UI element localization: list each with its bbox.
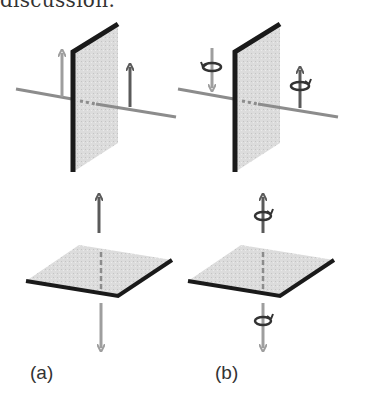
panel-a — [16, 24, 176, 348]
panel-label-b: (b) — [215, 362, 238, 384]
figure — [0, 0, 380, 395]
axis-line — [16, 89, 72, 99]
panel-b — [178, 24, 338, 348]
horizontal-plate — [26, 245, 172, 296]
panel-label-a: (a) — [30, 362, 53, 384]
